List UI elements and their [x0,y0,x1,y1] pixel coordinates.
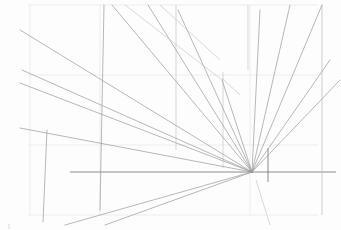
converging-lines [20,5,340,225]
perspective-sketch [0,0,341,230]
vertical-lines [43,5,322,222]
sketch-drawing [0,0,341,230]
